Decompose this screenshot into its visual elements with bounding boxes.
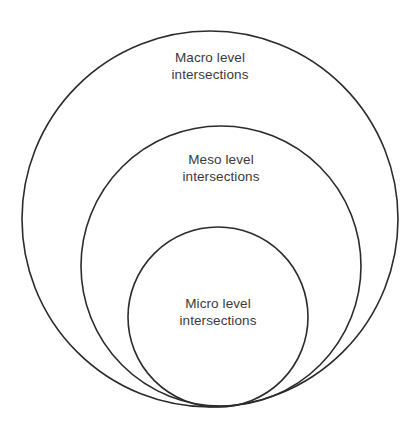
micro-level-label: Micro level intersections (9, 295, 419, 330)
meso-level-label: Meso level intersections (12, 151, 419, 186)
macro-level-label: Macro level intersections (1, 49, 419, 84)
macro-level-circle (22, 31, 398, 407)
macro-level-label-line2: intersections (1, 66, 419, 83)
micro-level-label-line1: Micro level (9, 295, 419, 312)
meso-level-label-line2: intersections (12, 168, 419, 185)
nested-circles-diagram: Macro level intersections Meso level int… (0, 0, 419, 430)
macro-level-label-line1: Macro level (1, 49, 419, 66)
micro-level-label-line2: intersections (9, 312, 419, 329)
meso-level-label-line1: Meso level (12, 151, 419, 168)
